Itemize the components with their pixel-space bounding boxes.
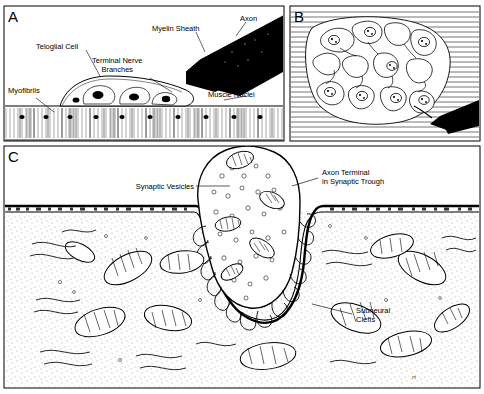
annotation-terminal-nerve-branches-line1: Terminal Nerve: [92, 56, 142, 65]
annotation-subneural-clefts-line2: Clefts: [356, 315, 390, 324]
annotation-axon-terminal-line2: in Synaptic Trough: [322, 177, 384, 186]
annotation-synaptic-vesicles: Synaptic Vesicles: [86, 182, 194, 191]
annotation-subneural-clefts-line1: Subneural: [356, 306, 390, 315]
artist-signature: rt: [412, 374, 416, 380]
annotation-teloglial-cell: Teloglial Cell: [36, 42, 78, 51]
annotation-axon: Axon: [240, 14, 257, 23]
annotation-terminal-nerve-branches: Terminal Nerve Branches: [92, 56, 142, 74]
annotation-subneural-clefts: Subneural Clefts: [356, 306, 390, 324]
panel-label-b: B: [294, 8, 304, 25]
annotation-axon-terminal-in-synaptic-trough: Axon Terminal in Synaptic Trough: [322, 168, 384, 186]
annotation-axon-terminal-line1: Axon Terminal: [322, 168, 384, 177]
annotation-myelin-sheath: Myelin Sheath: [152, 24, 200, 33]
annotation-myofibrils: Myofibrils: [8, 86, 40, 95]
annotation-muscle-nuclei: Muscle Nuclei: [208, 90, 255, 99]
figure-canvas: A B C Teloglial Cell Myelin Sheath Axon …: [0, 0, 484, 394]
panel-label-a: A: [8, 8, 18, 25]
diagram-artwork: [0, 0, 484, 394]
annotation-terminal-nerve-branches-line2: Branches: [92, 65, 142, 74]
panel-label-c: C: [8, 148, 19, 165]
